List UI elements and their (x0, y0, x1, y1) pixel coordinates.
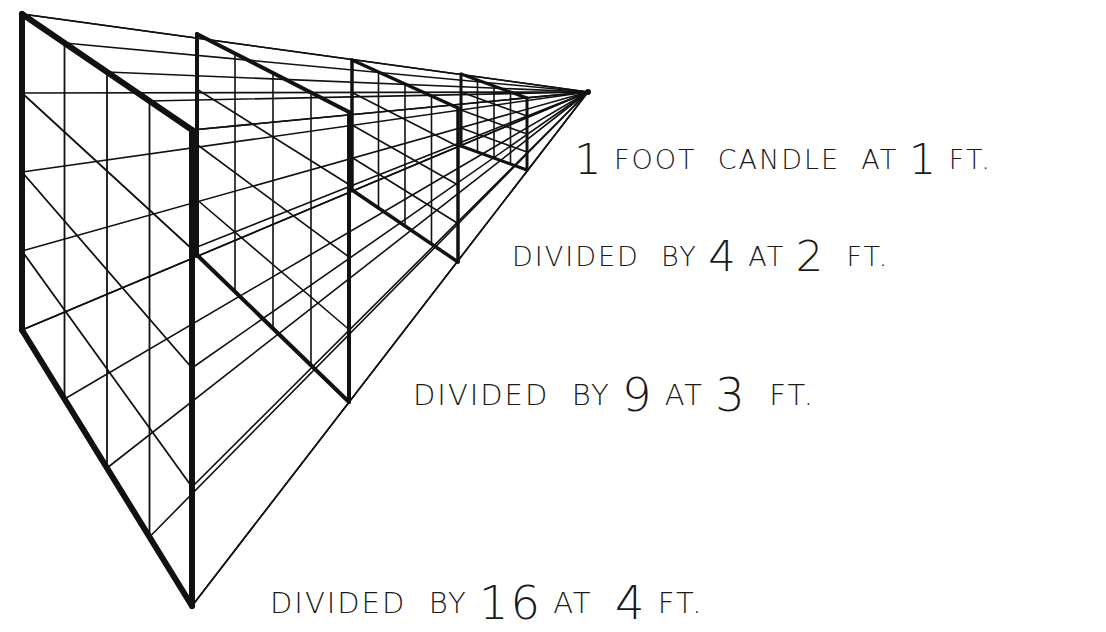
label-number: 2 (796, 231, 825, 281)
label-number: 1 (574, 134, 603, 184)
frame-grids (22, 43, 527, 537)
label-number: 9 (622, 368, 654, 422)
label-text: AT (738, 241, 796, 272)
label-number: 1 (909, 134, 938, 184)
light-source-point (585, 89, 591, 95)
inverse-square-perspective-diagram (0, 0, 1106, 632)
label-text: FT. (938, 144, 992, 175)
light-ray-line (192, 92, 588, 368)
label-divided-by-9-at-3-ft: DIVIDED BY 9 AT 3 FT. (413, 372, 815, 418)
label-number: 3 (715, 368, 747, 422)
label-number: 4 (708, 231, 737, 281)
label-text: DIVIDED BY (270, 586, 479, 620)
light-ray-line (192, 92, 588, 606)
label-text: AT (542, 586, 615, 620)
light-ray-line (192, 92, 588, 249)
label-text: FT. (825, 241, 889, 272)
label-number: 16 (479, 576, 542, 630)
light-ray-line (65, 43, 589, 92)
label-text: FT. (747, 378, 815, 412)
label-text: AT (654, 378, 716, 412)
label-1-foot-candle-at-1-ft: 1 FOOT CANDLE AT 1 FT. (574, 138, 992, 181)
label-text: DIVIDED BY (512, 241, 708, 272)
label-text: DIVIDED BY (413, 378, 622, 412)
label-text: FOOT CANDLE AT (603, 144, 908, 175)
label-divided-by-4-at-2-ft: DIVIDED BY 4 AT 2 FT. (512, 235, 889, 278)
label-text: FT. (647, 586, 704, 620)
label-divided-by-16-at-4-ft: DIVIDED BY 16 AT 4 FT. (270, 580, 703, 626)
label-number: 4 (615, 576, 647, 630)
